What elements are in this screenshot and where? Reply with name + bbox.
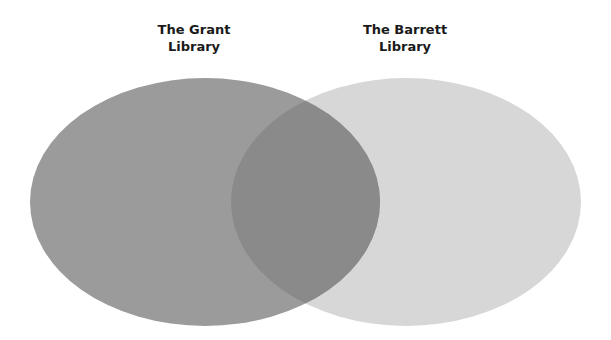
barrett-label-line2: Library [325, 38, 485, 55]
barrett-label-line1: The Barrett [325, 21, 485, 38]
grant-label-line2: Library [114, 38, 274, 55]
venn-diagram [0, 0, 611, 340]
barrett-library-label: The Barrett Library [325, 21, 485, 55]
grant-label-line1: The Grant [114, 21, 274, 38]
grant-library-label: The Grant Library [114, 21, 274, 55]
